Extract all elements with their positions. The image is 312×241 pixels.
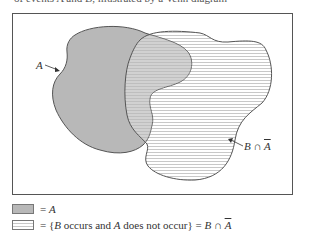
legend-a-var: A bbox=[49, 203, 56, 215]
legend-a-var-2: A bbox=[114, 219, 121, 231]
hatch-swatch-icon bbox=[12, 220, 34, 230]
label-a: A bbox=[36, 59, 43, 71]
legend-item-b-not-a: = { B occurs and A does not occur} = B ∩… bbox=[12, 219, 231, 231]
legend-b-text-3: does not occur} = bbox=[121, 219, 205, 231]
label-b-not-a-prefix: B ∩ bbox=[244, 140, 264, 152]
legend-a-prefix: = bbox=[40, 203, 49, 215]
legend-b-var-2: B bbox=[204, 219, 211, 231]
legend-b-text-2: occurs and bbox=[61, 219, 114, 231]
label-b-not-a: B ∩ A bbox=[244, 140, 271, 152]
legend-b-text-1: = { bbox=[40, 219, 54, 231]
label-a-complement: A bbox=[264, 140, 271, 152]
legend-cap-symbol: ∩ bbox=[211, 219, 224, 231]
legend-a-complement: A bbox=[225, 219, 232, 231]
legend-item-a: = A bbox=[12, 203, 56, 215]
gray-swatch-icon bbox=[12, 204, 34, 214]
legend-b-var: B bbox=[54, 219, 61, 231]
